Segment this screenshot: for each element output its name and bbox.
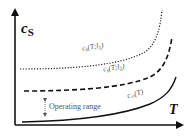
y-axis-label-sub: S xyxy=(28,26,34,38)
y-axis-label-main: c xyxy=(21,20,28,36)
label-args: (T;l xyxy=(108,62,120,72)
label-args: (T;l xyxy=(87,41,99,51)
y-axis-label: cS xyxy=(21,20,34,38)
label-args: (T) xyxy=(133,87,144,98)
operating-range-label: Operating range xyxy=(49,102,101,111)
curve-c-inf xyxy=(22,77,176,122)
curve-cs-l1 xyxy=(20,10,162,69)
x-axis-label: T xyxy=(169,102,178,118)
